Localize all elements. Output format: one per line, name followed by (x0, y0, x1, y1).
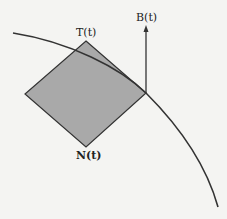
osculating-plane (25, 41, 146, 147)
diagram-canvas: T(t) B(t) N(t) (0, 0, 227, 219)
tangent-label: T(t) (76, 27, 96, 38)
normal-label: N(t) (76, 150, 102, 161)
binormal-arrowhead-icon (144, 25, 149, 32)
binormal-label: B(t) (136, 12, 157, 23)
diagram-svg (0, 0, 227, 219)
